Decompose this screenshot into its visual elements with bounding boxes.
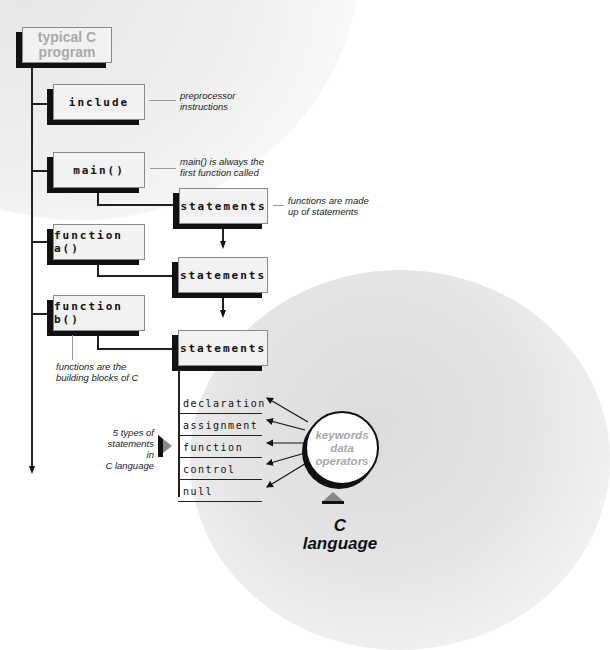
statements-note: functions are made up of statements	[288, 195, 369, 217]
statements-box-2: statements	[178, 257, 268, 293]
connector-function-a	[31, 241, 53, 243]
connector-include	[31, 103, 53, 105]
statements-note-leader	[273, 205, 284, 206]
statement-types-note: 5 types of statements in C language	[104, 427, 154, 471]
arrow-stmt2-to-stmt3-icon	[220, 310, 226, 318]
connector-fb-statements-h	[97, 348, 180, 350]
statement-types-list: declaration assignment function control …	[178, 392, 262, 502]
main-note: main() is always the first function call…	[180, 156, 264, 178]
connector-function-b	[31, 313, 53, 315]
statement-type-control: control	[178, 458, 262, 480]
connector-main	[31, 170, 53, 172]
connector-fa-statements-h	[97, 275, 180, 277]
statement-type-declaration: declaration	[178, 392, 262, 414]
main-box: main()	[53, 152, 145, 188]
title-box: typical C program	[22, 27, 112, 63]
connector-fb-statements-v	[97, 335, 99, 349]
title-line2: program	[39, 45, 96, 60]
function-a-box: function a()	[53, 224, 145, 260]
statement-type-function: function	[178, 436, 262, 458]
function-b-box: function b()	[53, 295, 145, 331]
function-b-note-leader	[72, 335, 73, 360]
pointer-triangle-icon	[158, 435, 172, 457]
function-b-note: functions are the building blocks of C	[56, 361, 138, 383]
arrow-stmt1-to-stmt2-icon	[220, 241, 226, 249]
connector-main-statements-h	[97, 204, 180, 206]
main-note-leader	[150, 168, 176, 169]
spine-arrow-icon	[29, 466, 35, 474]
keywords-data-operators-circle: keywords data operators	[305, 411, 379, 485]
include-box: include	[53, 84, 145, 120]
statement-type-assignment: assignment	[178, 414, 262, 436]
c-language-label: C language	[290, 517, 390, 553]
statements-box-1: statements	[179, 188, 268, 224]
statement-type-null: null	[178, 480, 262, 502]
statements-box-3: statements	[178, 330, 268, 366]
include-note-leader	[149, 100, 176, 101]
up-triangle-icon	[322, 492, 344, 504]
title-line1: typical C	[38, 30, 96, 45]
include-note: preprocessor instructions	[180, 90, 235, 112]
main-spine-line	[31, 60, 33, 468]
